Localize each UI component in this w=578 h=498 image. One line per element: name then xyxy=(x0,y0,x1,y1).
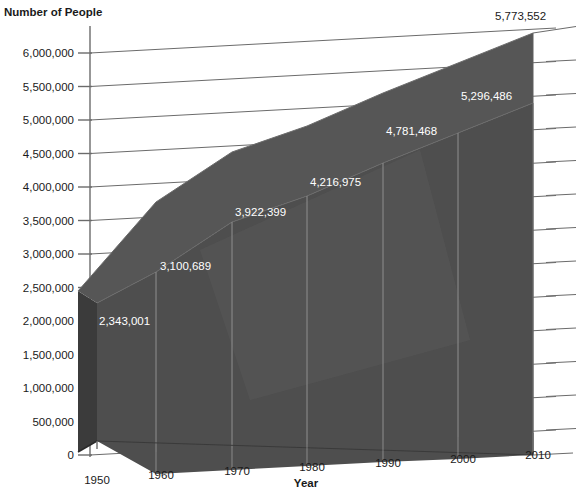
data-label: 5,296,486 xyxy=(461,90,512,102)
y-tick-label: 3,000,000 xyxy=(23,248,74,260)
area-left-face xyxy=(78,291,97,452)
data-label: 2,343,001 xyxy=(99,315,150,327)
data-label: 3,100,689 xyxy=(160,260,211,272)
x-tick-label: 1960 xyxy=(148,469,174,481)
y-tick-label: 1,000,000 xyxy=(23,382,74,394)
x-tick-label: 2000 xyxy=(450,453,476,465)
x-tick-label: 2010 xyxy=(525,449,551,461)
x-tick-label: 1980 xyxy=(299,461,325,473)
y-axis-title: Number of People xyxy=(4,6,102,18)
data-label: 4,216,975 xyxy=(310,176,361,188)
x-axis-title: Year xyxy=(294,477,319,489)
data-label: 4,781,468 xyxy=(386,125,437,137)
y-tick-label: 4,000,000 xyxy=(23,181,74,193)
y-tick-labels: 0 500,000 1,000,000 1,500,000 2,000,000 … xyxy=(23,47,74,461)
right-axis-ticks xyxy=(533,27,576,456)
y-tick-label: 6,000,000 xyxy=(23,47,74,59)
y-tick-label: 4,500,000 xyxy=(23,148,74,160)
y-tick-label: 5,000,000 xyxy=(23,114,74,126)
chart-container: Number of People Year 0 500,000 1,000,00… xyxy=(0,0,578,498)
y-tick-label: 0 xyxy=(68,449,74,461)
y-tick-label: 500,000 xyxy=(32,416,74,428)
data-label: 3,922,399 xyxy=(235,206,286,218)
x-tick-label: 1990 xyxy=(375,457,401,469)
data-label: 5,773,552 xyxy=(495,10,546,22)
population-area-chart: Number of People Year 0 500,000 1,000,00… xyxy=(0,0,578,498)
y-tick-label: 1,500,000 xyxy=(23,349,74,361)
y-tick-label: 3,500,000 xyxy=(23,215,74,227)
x-tick-label: 1950 xyxy=(84,474,110,486)
y-tick-label: 5,500,000 xyxy=(23,81,74,93)
y-tick-label: 2,000,000 xyxy=(23,315,74,327)
x-tick-label: 1970 xyxy=(224,465,250,477)
y-tick-label: 2,500,000 xyxy=(23,282,74,294)
